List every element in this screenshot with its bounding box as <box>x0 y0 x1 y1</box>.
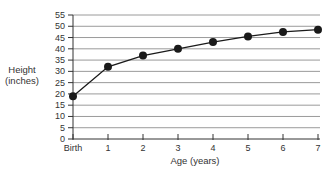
y-axis-label: Height <box>8 64 36 75</box>
data-point-marker <box>279 28 287 36</box>
y-tick-label: 55 <box>55 10 65 20</box>
data-point-marker <box>104 63 112 71</box>
data-point-marker <box>139 52 147 60</box>
y-axis: 0510152025303540455055 <box>55 10 73 144</box>
y-tick-label: 45 <box>55 33 65 43</box>
data-point-marker <box>174 45 182 53</box>
data-series <box>69 26 322 101</box>
data-point-marker <box>209 38 217 46</box>
y-tick-label: 30 <box>55 66 65 76</box>
x-tick-label: Birth <box>64 143 83 153</box>
x-tick-label: 1 <box>105 143 110 153</box>
y-tick-label: 15 <box>55 100 65 110</box>
x-tick-label: 4 <box>210 143 215 153</box>
x-axis: Birth1234567 <box>64 134 321 153</box>
data-point-marker <box>69 92 77 100</box>
line-chart: 0510152025303540455055 Birth1234567 Heig… <box>0 0 329 176</box>
y-tick-label: 10 <box>55 111 65 121</box>
series-line <box>73 30 318 97</box>
x-tick-label: 5 <box>245 143 250 153</box>
y-tick-label: 20 <box>55 89 65 99</box>
x-tick-label: 3 <box>175 143 180 153</box>
x-tick-label: 6 <box>280 143 285 153</box>
x-tick-label: 7 <box>315 143 320 153</box>
y-tick-label: 35 <box>55 55 65 65</box>
y-tick-label: 40 <box>55 44 65 54</box>
y-tick-label: 5 <box>60 123 65 133</box>
y-axis-label-units: (inches) <box>5 75 39 86</box>
x-axis-label: Age (years) <box>170 155 219 166</box>
x-tick-label: 2 <box>140 143 145 153</box>
y-tick-label: 25 <box>55 78 65 88</box>
data-point-marker <box>314 26 322 34</box>
y-tick-label: 50 <box>55 21 65 31</box>
data-point-marker <box>244 32 252 40</box>
